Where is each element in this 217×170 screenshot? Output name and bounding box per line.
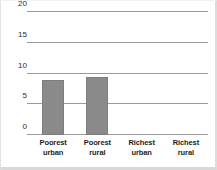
x-label-richest-urban: Richest urban bbox=[120, 138, 164, 158]
x-label-line1: Poorest bbox=[40, 138, 67, 147]
x-label-poorest-urban: Poorest urban bbox=[31, 138, 75, 158]
bar-slot bbox=[31, 5, 75, 135]
ytick-label-5: 5 bbox=[23, 92, 27, 100]
x-label-poorest-rural: Poorest rural bbox=[75, 138, 119, 158]
chart-figure: 0 5 10 15 20 Poorest urban bbox=[0, 0, 217, 170]
bar-slot bbox=[120, 5, 164, 135]
x-label-line2: rural bbox=[75, 148, 119, 158]
x-label-line2: urban bbox=[120, 148, 164, 158]
bar-slot bbox=[75, 5, 119, 135]
ytick-label-10: 10 bbox=[18, 62, 27, 70]
bar-poorest-rural bbox=[86, 77, 108, 136]
ytick-label-0: 0 bbox=[23, 123, 27, 131]
x-label-line1: Poorest bbox=[84, 138, 111, 147]
x-label-line1: Richest bbox=[128, 138, 154, 147]
bar-poorest-urban bbox=[42, 80, 64, 135]
ytick-label-15: 15 bbox=[18, 31, 27, 39]
x-axis-labels: Poorest urban Poorest rural Richest urba… bbox=[31, 138, 208, 158]
ytick-label-20: 20 bbox=[18, 0, 27, 8]
x-label-line1: Richest bbox=[173, 138, 199, 147]
bar-slot bbox=[164, 5, 208, 135]
bar-series bbox=[31, 5, 208, 135]
x-label-richest-rural: Richest rural bbox=[164, 138, 208, 158]
x-label-line2: rural bbox=[164, 148, 208, 158]
x-label-line2: urban bbox=[31, 148, 75, 158]
